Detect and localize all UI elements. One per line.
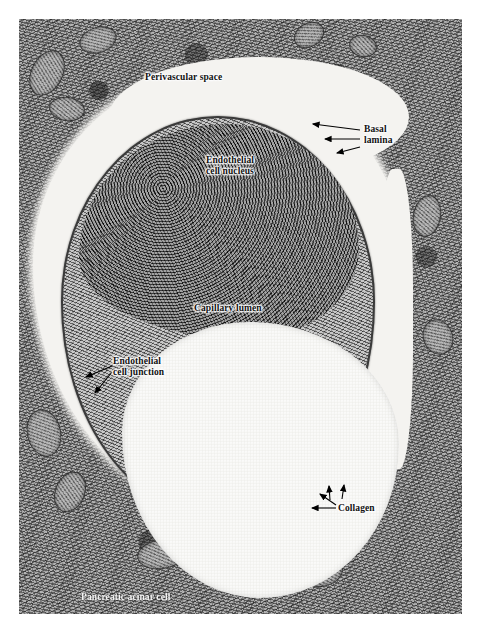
label-capillary-lumen: Capillary lumen	[194, 303, 262, 314]
label-perivascular-space: Perivascular space	[145, 72, 222, 83]
micrograph-plate	[19, 19, 462, 614]
label-collagen: Collagen	[338, 503, 375, 514]
label-pancreatic-acinar-cell: Pancreatic acinar cell	[81, 592, 170, 603]
label-basal-lamina: Basal lamina	[364, 124, 393, 146]
label-endothelial-cell-nucleus: Endothelial cell nucleus	[206, 155, 254, 177]
label-endothelial-cell-junction: Endothelial cell junction	[113, 356, 164, 378]
electron-micrograph-figure: Perivascular spaceBasal laminaEndothelia…	[0, 0, 479, 631]
